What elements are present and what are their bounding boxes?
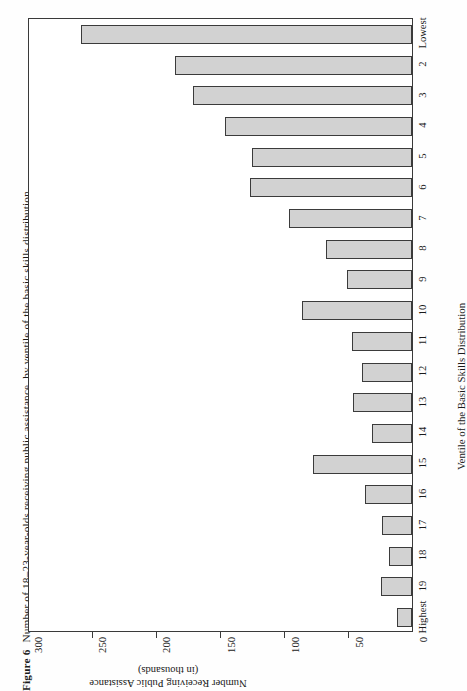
category-tick-label: 2	[417, 61, 428, 66]
category-tick-label: 7	[417, 215, 428, 220]
category-tick-label: Highest	[417, 600, 428, 633]
bar-2	[175, 56, 412, 75]
bar-7	[289, 209, 412, 228]
bar-5	[252, 148, 412, 167]
category-tick-label: 4	[417, 123, 428, 128]
category-tick-label: 14	[417, 427, 428, 438]
bar-11	[352, 332, 412, 351]
value-tick-label: 150	[226, 637, 237, 653]
value-tick-label: 300	[33, 637, 44, 653]
category-tick-label: 6	[417, 184, 428, 189]
bar-highest	[397, 608, 412, 627]
value-tick	[220, 632, 221, 638]
category-tick-label: 11	[417, 335, 428, 345]
bar-4	[225, 117, 412, 136]
chart-plot-area	[28, 18, 413, 632]
category-tick-label: Lowest	[417, 18, 428, 49]
value-axis-title: Number Receiving Public Assistance (in t…	[18, 664, 318, 689]
category-tick-label: 8	[417, 246, 428, 251]
bar-10	[302, 301, 412, 320]
bar-18	[389, 547, 412, 566]
value-tick-label: 100	[290, 637, 301, 653]
category-tick-label: 10	[417, 304, 428, 315]
bar-9	[347, 270, 412, 289]
bar-14	[372, 424, 412, 443]
bar-6	[250, 178, 412, 197]
value-tick	[92, 632, 93, 638]
category-tick-label: 9	[417, 276, 428, 281]
value-axis-title-line1: Number Receiving Public Assistance	[18, 677, 318, 690]
value-tick	[156, 632, 157, 638]
value-tick	[284, 632, 285, 638]
value-tick-label: 250	[97, 637, 108, 653]
category-tick-label: 3	[417, 92, 428, 97]
category-tick-label: 17	[417, 519, 428, 530]
bar-12	[362, 363, 412, 382]
category-tick-label: 5	[417, 153, 428, 158]
category-tick-label: 15	[417, 458, 428, 469]
value-tick-label: 0	[418, 637, 429, 642]
bar-8	[326, 240, 412, 259]
bar-15	[313, 455, 412, 474]
category-tick-label: 16	[417, 489, 428, 500]
value-axis-title-line2: (in thousands)	[18, 664, 318, 677]
bar-17	[382, 516, 412, 535]
category-tick-label: 13	[417, 396, 428, 407]
bar-19	[381, 577, 412, 596]
bar-16	[365, 485, 412, 504]
bar-13	[353, 393, 412, 412]
bar-lowest	[81, 25, 412, 44]
value-tick-label: 200	[161, 637, 172, 653]
category-axis-title: Ventile of the Basic Skills Distribution	[455, 303, 467, 470]
category-tick-label: 12	[417, 366, 428, 377]
category-tick-label: 18	[417, 550, 428, 561]
value-tick-label: 50	[354, 637, 365, 648]
category-tick-label: 19	[417, 581, 428, 592]
value-tick	[348, 632, 349, 638]
figure-caption-container: Figure 6Number of 18–23-year-olds receiv…	[0, 0, 22, 691]
bar-3	[193, 86, 412, 105]
